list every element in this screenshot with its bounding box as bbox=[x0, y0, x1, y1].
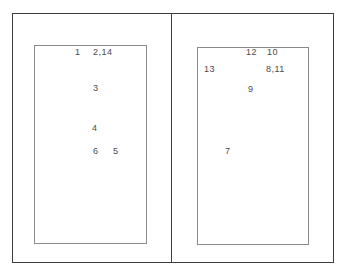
label-9: 9 bbox=[248, 85, 254, 94]
label-2-14: 2,14 bbox=[93, 48, 113, 57]
label-1: 1 bbox=[75, 48, 81, 57]
label-7: 7 bbox=[225, 147, 231, 156]
label-10: 10 bbox=[267, 48, 278, 57]
label-8-11: 8,11 bbox=[266, 65, 285, 74]
panel-divider bbox=[171, 13, 172, 263]
right-panel-inner-frame bbox=[197, 47, 309, 245]
label-3: 3 bbox=[93, 84, 99, 93]
label-6: 6 bbox=[93, 147, 99, 156]
label-13: 13 bbox=[204, 65, 215, 74]
label-5: 5 bbox=[113, 147, 119, 156]
label-4: 4 bbox=[92, 124, 98, 133]
label-12: 12 bbox=[246, 48, 257, 57]
left-panel-inner-frame bbox=[34, 45, 147, 244]
